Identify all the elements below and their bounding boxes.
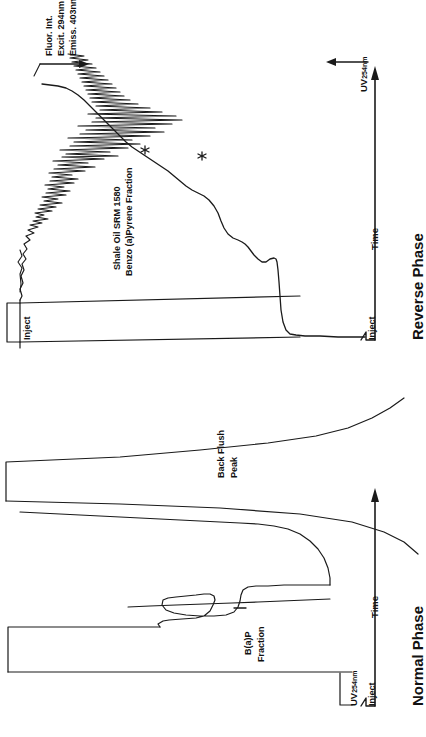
annotation-fraction-line1: B(a)P bbox=[243, 631, 254, 655]
reverse-baseline-lower bbox=[20, 337, 300, 342]
panel-title-reverse-phase: Reverse Phase bbox=[409, 233, 426, 340]
annotation-backflush-line1: Back Flush bbox=[216, 430, 227, 478]
inject-label-normal: Inject bbox=[367, 682, 377, 706]
figure-canvas: Reverse Phase Time Inject Inject Shale O… bbox=[0, 0, 426, 737]
detector-uv-text: UV bbox=[358, 79, 369, 92]
detector-uv-text-normal: UV bbox=[348, 693, 359, 706]
normal-backflush-peak-trace bbox=[6, 398, 404, 501]
normal-bap-fraction-trace bbox=[158, 585, 330, 627]
peak-marker-asterisk-2 bbox=[198, 152, 206, 160]
axis-label-time-normal: Time bbox=[369, 596, 380, 618]
detector-uv-label-reverse: UV254nm bbox=[358, 57, 369, 92]
axis-label-time-reverse: Time bbox=[369, 228, 380, 250]
annotation-fraction-line2: Fraction bbox=[256, 626, 267, 662]
sample-label-reverse-2: Benzo (a)Pyrene Fraction bbox=[124, 167, 135, 276]
reverse-baseline-upper bbox=[20, 296, 300, 303]
chromatogram-svg bbox=[0, 0, 426, 737]
detector-uv-subscript: 254nm bbox=[361, 57, 368, 79]
normal-solvent-peak-trace bbox=[20, 512, 330, 585]
reverse-baseline-box bbox=[7, 303, 20, 342]
normal-backflush-peak-baseline bbox=[6, 501, 418, 554]
reverse-time-axis bbox=[371, 66, 379, 340]
sample-label-line1: Shale Oil SRM 1580 bbox=[112, 186, 123, 270]
panel-title-normal-phase: Normal Phase bbox=[409, 606, 426, 706]
sample-label-line2: Benzo (a)Pyrene Fraction bbox=[124, 167, 135, 276]
reverse-uv254-trace bbox=[42, 84, 365, 337]
normal-secondary-trace bbox=[128, 599, 330, 607]
detector-uv-label-normal: UV254nm bbox=[348, 671, 359, 706]
detector-fluor-line1: Fluor. Int. bbox=[44, 16, 55, 57]
annotation-backflush-line2: Peak bbox=[229, 457, 240, 478]
inject-label-reverse-left: Inject bbox=[22, 316, 32, 340]
sample-label-reverse: Shale Oil SRM 1580 bbox=[112, 186, 123, 270]
normal-baseline-left-box bbox=[8, 627, 160, 672]
inject-label-reverse: Inject bbox=[367, 316, 377, 340]
detector-uv-subscript-normal: 254nm bbox=[351, 671, 358, 693]
reverse-fluorescence-trace bbox=[20, 54, 182, 300]
detector-fluor-line2: Excit. 294nm bbox=[56, 1, 67, 56]
detector-fluor-line3: Emiss. 403nm bbox=[68, 0, 79, 56]
peak-marker-asterisk-1 bbox=[141, 146, 149, 154]
